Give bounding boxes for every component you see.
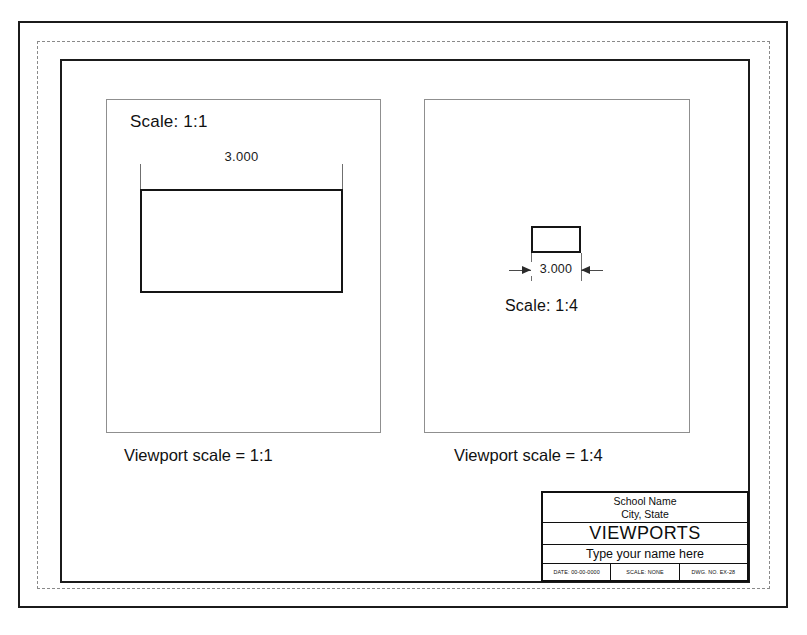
title-block-meta-row: DATE: 00-00-0000 SCALE: NONE DWG. NO. EX… — [543, 564, 747, 580]
drawing-title-text: VIEWPORTS — [543, 523, 747, 545]
name-prompt-field[interactable]: Type your name here — [543, 545, 747, 564]
dimension-text-right: 3.000 — [531, 262, 581, 276]
arrow-left-icon — [581, 266, 590, 274]
date-cell: DATE: 00-00-0000 — [543, 564, 611, 580]
city-state-text: City, State — [621, 508, 669, 520]
part-rectangle-right — [531, 226, 581, 253]
viewport-caption-right: Viewport scale = 1:4 — [454, 446, 603, 465]
title-block-school-row: School Name City, State — [543, 493, 747, 523]
dwg-number-cell: DWG. NO. EX-28 — [680, 564, 747, 580]
dimension-right: 3.000 — [501, 253, 611, 283]
dimension-text-left: 3.000 — [140, 149, 343, 164]
scale-cell: SCALE: NONE — [611, 564, 679, 580]
dimension-left: 3.000 — [140, 155, 343, 191]
scale-label-left: Scale: 1:1 — [130, 112, 208, 132]
arrow-right-icon — [522, 266, 531, 274]
school-name-text: School Name — [613, 495, 676, 507]
title-block: School Name City, State VIEWPORTS Type y… — [541, 491, 749, 582]
part-rectangle-left — [140, 189, 343, 293]
scale-label-right: Scale: 1:4 — [505, 297, 578, 315]
viewport-caption-left: Viewport scale = 1:1 — [124, 446, 273, 465]
drawing-sheet: Scale: 1:1 3.000 Viewport scale = 1:1 3.… — [0, 0, 807, 635]
